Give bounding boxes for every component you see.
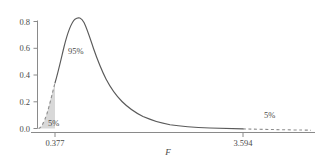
y-tick-label-0: 0.0	[4, 125, 30, 134]
right-tail-percent-label: 5%	[264, 111, 275, 120]
x-tick-label-right: 3.594	[213, 139, 273, 148]
left-tail-percent-label: 5%	[48, 119, 59, 128]
y-tick-label-4: 0.8	[4, 18, 30, 27]
x-tick-label-left: 0.377	[25, 139, 85, 148]
y-tick-label-3: 0.6	[4, 44, 30, 53]
x-axis-label: F	[148, 148, 188, 157]
center-percent-label: 95%	[68, 47, 84, 56]
y-tick-label-1: 0.2	[4, 98, 30, 107]
plot-area	[0, 0, 327, 161]
f-distribution-chart: 0.8 0.6 0.4 0.2 0.0 0.377 3.594 F 5% 95%…	[0, 0, 327, 161]
y-tick-label-2: 0.4	[4, 71, 30, 80]
right-tail-curve	[243, 129, 311, 130]
central-density-curve	[55, 18, 243, 129]
